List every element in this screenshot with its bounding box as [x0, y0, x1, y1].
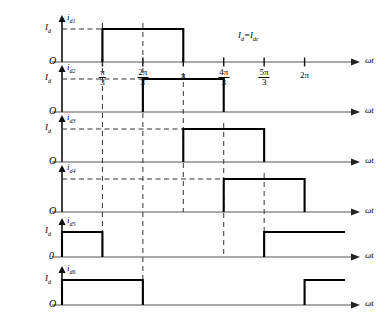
y-axis-arrow-row-2: [58, 65, 65, 72]
y-axis-arrow-row-1: [58, 15, 65, 22]
amplitude-label-row-3: Id: [45, 123, 51, 134]
axis-label-row-1: ωt: [365, 56, 374, 65]
waveform-trace-i-d6: [62, 280, 345, 305]
origin-label-row-4: O: [49, 206, 56, 216]
x-tick-label-4: 4π3: [218, 68, 229, 88]
x-axis-arrow-row-5: [351, 253, 360, 260]
origin-label-row-6: O: [49, 299, 56, 309]
amplitude-label-row-1: Id: [45, 23, 51, 34]
axis-label-row-5: ωt: [365, 251, 374, 260]
signal-label-id2: id2: [67, 63, 76, 74]
x-axis-arrow-row-4: [351, 208, 360, 215]
x-tick-label-6: 2π: [300, 71, 309, 80]
x-axis-arrow-row-2: [351, 108, 360, 115]
origin-label-row-2: O: [49, 106, 56, 116]
x-tick-label-5: 5π3: [259, 68, 270, 88]
x-tick-label-1: π3: [99, 68, 106, 88]
waveform-plot: [0, 0, 392, 323]
waveform-trace-i-d5: [62, 232, 345, 257]
axis-label-row-6: ωt: [365, 299, 374, 308]
current-annotation: Id=Idc: [238, 31, 259, 42]
x-tick-label-2: 2π3: [137, 68, 148, 88]
amplitude-label-row-2: Id: [45, 73, 51, 84]
x-axis-arrow-row-1: [351, 58, 360, 65]
origin-label-row-3: O: [49, 156, 56, 166]
origin-label-row-1: O: [49, 56, 56, 66]
axis-label-row-4: ωt: [365, 206, 374, 215]
amplitude-label-row-5: Id: [45, 226, 51, 237]
waveform-figure: id1id2id3id4id5id6OOOO0OIdIdIdIdIdωtωtωt…: [0, 0, 392, 323]
x-axis-arrow-row-6: [351, 301, 360, 308]
y-axis-arrow-row-3: [58, 115, 65, 122]
axis-label-row-2: ωt: [365, 106, 374, 115]
y-axis-arrow-row-4: [58, 165, 65, 172]
signal-label-id5: id5: [67, 216, 76, 227]
x-axis-arrow-row-3: [351, 158, 360, 165]
signal-label-id3: id3: [67, 113, 76, 124]
signal-label-id6: id6: [67, 264, 76, 275]
y-axis-arrow-row-6: [58, 266, 65, 273]
origin-label-row-5: 0: [49, 251, 54, 261]
signal-label-id1: id1: [67, 13, 76, 24]
x-tick-label-3: π: [181, 71, 186, 80]
signal-label-id4: id4: [67, 163, 76, 174]
axis-label-row-3: ωt: [365, 156, 374, 165]
amplitude-label-row-6: Id: [45, 274, 51, 285]
y-axis-arrow-row-5: [58, 218, 65, 225]
